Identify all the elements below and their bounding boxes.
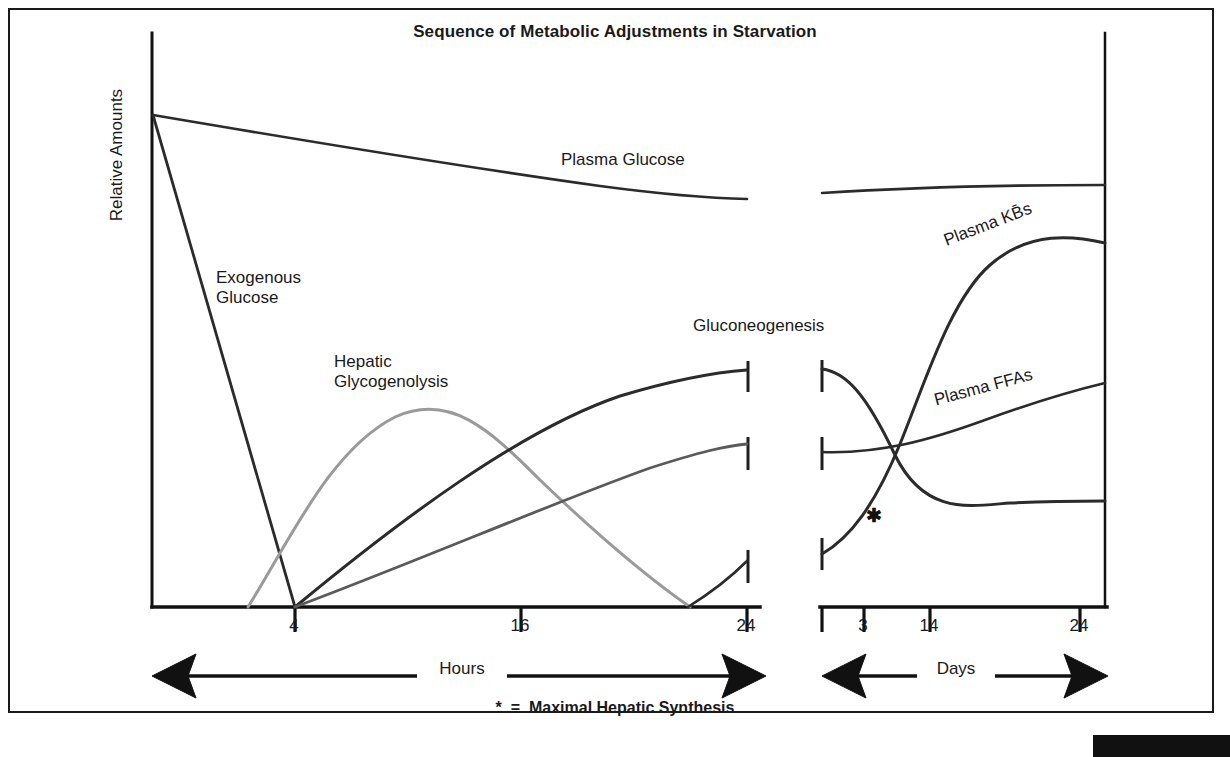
curve-label-gluconeogenesis: Gluconeogenesis	[693, 316, 824, 336]
figure-page: ✱ Sequence of Metabolic Adjustments in S…	[0, 0, 1230, 757]
x-tick-label-24-hours: 24	[726, 616, 766, 636]
x-tick-label-4-hours: 4	[274, 616, 314, 636]
figure-footnote: * = Maximal Hepatic Synthesis	[0, 699, 1230, 718]
axes	[152, 33, 1107, 607]
curve-label-hepatic-glycogenolysis: Hepatic Glycogenolysis	[334, 352, 448, 392]
x-tick-label-14-days: 14	[909, 616, 949, 636]
curve-gluconeogenesis-left	[295, 370, 747, 607]
curve-plasma-ffas-left	[295, 444, 747, 607]
curve-plasma-kbs-left	[688, 561, 747, 607]
x-axis-label-hours: Hours	[417, 659, 507, 679]
y-axis-label: Relative Amounts	[107, 35, 127, 275]
curve-label-plasma-glucose: Plasma Glucose	[561, 150, 685, 170]
x-ticks	[295, 607, 1080, 632]
axis-break-endcaps	[748, 360, 822, 583]
scan-artifact-bar	[1093, 735, 1230, 757]
curve-label-exogenous-glucose: Exogenous Glucose	[216, 268, 301, 308]
x-axis-label-days: Days	[917, 659, 995, 679]
chart-title: Sequence of Metabolic Adjustments in Sta…	[0, 22, 1230, 42]
curve-exogenous-glucose	[153, 115, 295, 607]
x-tick-label-24-days: 24	[1059, 616, 1099, 636]
chart-canvas: ✱	[0, 0, 1230, 757]
asterisk-annotation-marker: ✱	[866, 505, 882, 526]
x-tick-label-16-hours: 16	[500, 616, 540, 636]
x-tick-label-3-days: 3	[843, 616, 883, 636]
left-panel-curves	[153, 115, 747, 607]
curve-hepatic-glycogenolysis	[248, 409, 690, 607]
curve-plasma-glucose-right	[822, 185, 1105, 193]
